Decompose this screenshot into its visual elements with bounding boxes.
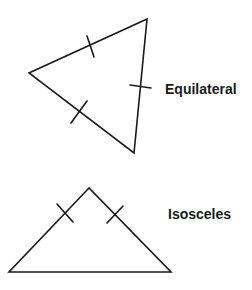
isosceles-label: Isosceles: [168, 207, 231, 221]
equilateral-label: Equilateral: [165, 82, 237, 96]
triangle-diagram: [0, 0, 252, 290]
isosceles-triangle: [9, 188, 171, 272]
equal-side-tick-mark: [71, 101, 87, 123]
isosceles-triangle-group: [9, 188, 171, 272]
equilateral-triangle-group: [29, 19, 151, 153]
